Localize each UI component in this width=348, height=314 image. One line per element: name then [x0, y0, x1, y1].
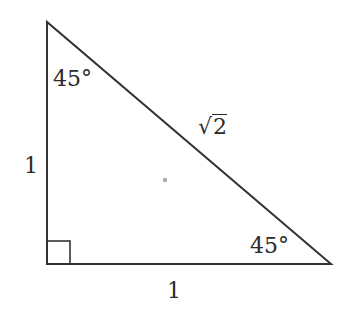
triangle-diagram [0, 0, 348, 314]
sqrt-radicand: 2 [212, 114, 227, 138]
hypotenuse-length-label: √2 [198, 114, 227, 138]
top-angle-label: 45° [53, 68, 92, 90]
center-dot [163, 178, 167, 182]
right-angle-marker [47, 241, 70, 264]
triangle-outline [47, 22, 331, 264]
bottom-side-length-label: 1 [167, 280, 181, 302]
bottom-right-angle-label: 45° [250, 235, 289, 257]
sqrt-symbol: √ [198, 116, 212, 138]
left-side-length-label: 1 [24, 155, 38, 177]
